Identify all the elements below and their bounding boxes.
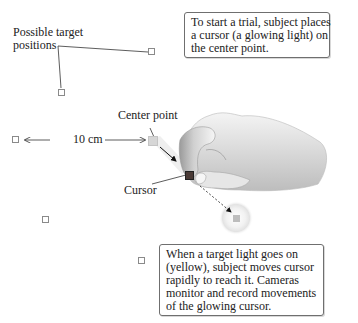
center-point (148, 136, 158, 146)
cursor-label: Cursor (124, 184, 157, 197)
hand-illustration (179, 113, 326, 191)
target-callout-line: of the glowing cursor. (166, 300, 317, 313)
target-square-upper-left (58, 89, 65, 96)
possible-targets-label: Possible target positions (13, 26, 83, 52)
possible-targets-leader (58, 46, 148, 88)
cursor-leader (152, 175, 186, 184)
target-square-lower-left (42, 216, 49, 223)
possible-targets-label-line2: positions (13, 39, 83, 52)
target-light-callout: When a target light goes on (yellow), su… (159, 244, 324, 316)
distance-label: 10 cm (71, 133, 105, 146)
cursor-light (185, 171, 194, 180)
lit-target (233, 215, 240, 222)
target-square-bottom (138, 257, 145, 264)
start-trial-callout: To start a trial, subject places a curso… (184, 12, 330, 58)
start-callout-line: the center point. (191, 42, 323, 55)
target-square-upper-right (148, 48, 155, 55)
target-square-left (12, 136, 19, 143)
center-point-label: Center point (118, 109, 178, 122)
